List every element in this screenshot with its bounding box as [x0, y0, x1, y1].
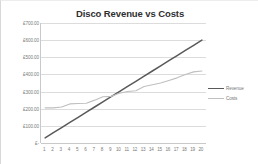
x-axis-tick-label: 14: [147, 146, 155, 158]
x-axis-tick-label: 4: [65, 146, 73, 158]
series-line-revenue: [45, 40, 202, 138]
y-axis-tick-label: £300.00: [5, 89, 39, 94]
x-axis-tick-label: 10: [114, 146, 122, 158]
x-axis-tick-label: 17: [172, 146, 180, 158]
x-axis-tick-label: 12: [131, 146, 139, 158]
legend-label: Costs: [226, 96, 237, 101]
y-axis-tick-label: £600.00: [5, 38, 39, 43]
x-axis-tick-label: 18: [180, 146, 188, 158]
y-axis-tick-label: £200.00: [5, 106, 39, 111]
chart-title: Disco Revenue vs Costs: [1, 8, 258, 19]
chart-container: Disco Revenue vs Costs £-£100.00£200.00£…: [0, 0, 258, 164]
y-axis-tick-label: £-: [5, 141, 39, 146]
legend-item-costs[interactable]: Costs: [208, 93, 258, 103]
x-axis-tick-label: 13: [139, 146, 147, 158]
plot-area: [40, 23, 205, 143]
x-axis-tick-label: 9: [106, 146, 114, 158]
y-axis-tick-labels: £-£100.00£200.00£300.00£400.00£500.00£60…: [3, 23, 39, 143]
x-axis-tick-label: 7: [90, 146, 98, 158]
y-axis-tick-label: £500.00: [5, 55, 39, 60]
x-axis-tick-label: 11: [123, 146, 131, 158]
x-axis-tick-label: 5: [73, 146, 81, 158]
x-axis-tick-label: 20: [197, 146, 205, 158]
legend-item-revenue[interactable]: Revenue: [208, 83, 258, 93]
x-axis-tick-labels: 1234567891011121314151617181920: [40, 146, 205, 158]
x-axis-tick-label: 1: [40, 146, 48, 158]
x-axis-tick-label: 15: [156, 146, 164, 158]
chart-legend: RevenueCosts: [208, 83, 258, 103]
y-axis-tick-label: £100.00: [5, 123, 39, 128]
x-axis-tick-label: 2: [48, 146, 56, 158]
legend-label: Revenue: [226, 86, 244, 91]
legend-line-swatch: [208, 88, 224, 89]
y-axis-tick-label: £700.00: [5, 21, 39, 26]
x-axis-tick-label: 3: [57, 146, 65, 158]
y-axis-tick-label: £400.00: [5, 72, 39, 77]
x-axis-tick-label: 19: [189, 146, 197, 158]
x-axis-tick-label: 16: [164, 146, 172, 158]
legend-line-swatch: [208, 98, 224, 99]
gridline: [41, 143, 206, 144]
x-axis-tick-label: 6: [81, 146, 89, 158]
series-lines: [41, 23, 206, 143]
x-axis-tick-label: 8: [98, 146, 106, 158]
